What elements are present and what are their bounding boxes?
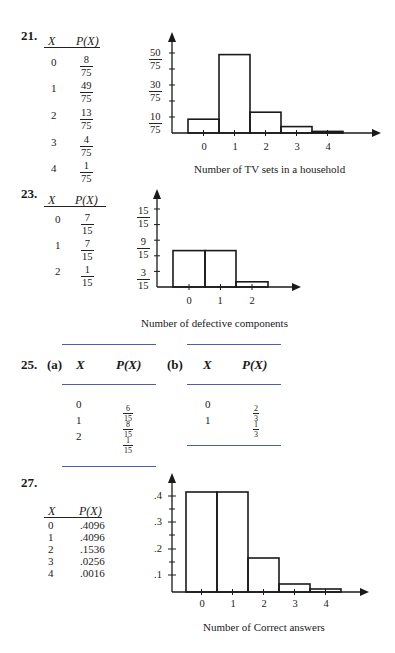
y-tick-label: .4 [154,490,162,501]
y-tick-label: .3 [154,516,162,527]
x-tick-label: 4 [316,598,336,609]
y-tick-label: .1 [154,569,162,580]
x-tick-label: 0 [192,598,212,609]
x-tick-label: 1 [223,598,243,609]
x-tick-label: 2 [254,598,274,609]
x-axis-caption: Number of Correct answers [203,621,325,633]
y-tick-label: .2 [154,543,162,554]
histogram-correct-answers [0,0,395,653]
x-tick-label: 3 [285,598,305,609]
